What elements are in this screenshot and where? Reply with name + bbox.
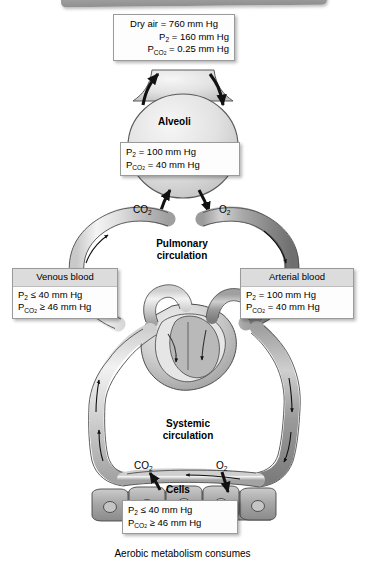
dry-air-line-3-value: = 0.25 mm Hg bbox=[166, 43, 229, 54]
o2-label-systemic: O2 bbox=[216, 460, 227, 471]
co2-label-systemic: CO2 bbox=[134, 460, 153, 471]
venous-line-1-value: ≤ 40 mm Hg bbox=[28, 289, 82, 300]
systemic-circulation-label: Systemic circulation bbox=[140, 418, 236, 442]
sub-2: 2 bbox=[148, 209, 152, 216]
o2-label-pulmonary: O2 bbox=[219, 204, 230, 215]
sub-o2: 2 bbox=[252, 294, 256, 301]
cells-line-1-value: ≤ 40 mm Hg bbox=[138, 504, 192, 515]
dry-air-line-2: P2 = 160 mm Hg bbox=[119, 31, 229, 44]
sub-2: 2 bbox=[149, 465, 153, 472]
cells-line-1: P2 ≤ 40 mm Hg bbox=[128, 504, 232, 517]
arterial-line-2-value: = 40 mm Hg bbox=[265, 301, 320, 312]
sub-o2: 2 bbox=[132, 151, 136, 158]
venous-line-2: PCO2 ≥ 46 mm Hg bbox=[18, 301, 112, 314]
alveoli-line-2-value: = 40 mm Hg bbox=[145, 159, 200, 170]
arterial-line-2: PCO2 = 40 mm Hg bbox=[246, 301, 348, 314]
arterial-line-1-value: = 100 mm Hg bbox=[256, 289, 316, 300]
diagram-canvas: Dry air = 760 mm Hg P2 = 160 mm Hg PCO2 … bbox=[0, 0, 365, 566]
dry-air-line-2-value: = 160 mm Hg bbox=[169, 31, 229, 42]
alveoli-gas-box: P2 = 100 mm Hg PCO2 = 40 mm Hg bbox=[120, 142, 240, 176]
sub-o2: 2 bbox=[165, 36, 169, 43]
co2-label-pulmonary: CO2 bbox=[133, 204, 152, 215]
sub-2: 2 bbox=[227, 209, 231, 216]
alveoli-line-2: PCO2 = 40 mm Hg bbox=[126, 159, 234, 172]
venous-blood-box: Venous blood P2 ≤ 40 mm Hg PCO2 ≥ 46 mm … bbox=[12, 268, 118, 319]
pulmonary-circulation-label: Pulmonary circulation bbox=[134, 238, 230, 262]
alveoli-line-1-value: = 100 mm Hg bbox=[136, 146, 196, 157]
arterial-blood-box: Arterial blood P2 = 100 mm Hg PCO2 = 40 … bbox=[240, 268, 354, 319]
arterial-blood-header: Arterial blood bbox=[241, 269, 353, 287]
sub-co2: CO2 bbox=[134, 522, 147, 529]
sub-co2: CO2 bbox=[154, 49, 167, 56]
sub-2: 2 bbox=[224, 465, 228, 472]
sub-o2: 2 bbox=[134, 509, 138, 516]
sub-co2: CO2 bbox=[252, 307, 265, 314]
cells-gas-box: P2 ≤ 40 mm Hg PCO2 ≥ 46 mm Hg bbox=[122, 500, 238, 534]
cells-line-2-value: ≥ 46 mm Hg bbox=[147, 517, 201, 528]
sub-o2: 2 bbox=[24, 294, 28, 301]
venous-line-2-value: ≥ 46 mm Hg bbox=[37, 301, 91, 312]
arterial-line-1: P2 = 100 mm Hg bbox=[246, 289, 348, 302]
dry-air-line-3: PCO2 = 0.25 mm Hg bbox=[119, 43, 229, 56]
sub-co2: CO2 bbox=[24, 307, 37, 314]
alveoli-label: Alveoli bbox=[158, 116, 191, 127]
alveoli-line-1: P2 = 100 mm Hg bbox=[126, 146, 234, 159]
dry-air-line-1: Dry air = 760 mm Hg bbox=[119, 18, 229, 31]
cells-line-2: PCO2 ≥ 46 mm Hg bbox=[128, 517, 232, 530]
figure-caption: Aerobic metabolism consumes bbox=[0, 548, 365, 559]
cells-label: Cells bbox=[166, 484, 190, 495]
p-symbol: P bbox=[147, 43, 153, 54]
venous-line-1: P2 ≤ 40 mm Hg bbox=[18, 289, 112, 302]
dry-air-box: Dry air = 760 mm Hg P2 = 160 mm Hg PCO2 … bbox=[113, 14, 235, 61]
sub-co2: CO2 bbox=[132, 164, 145, 171]
venous-blood-header: Venous blood bbox=[13, 269, 117, 287]
